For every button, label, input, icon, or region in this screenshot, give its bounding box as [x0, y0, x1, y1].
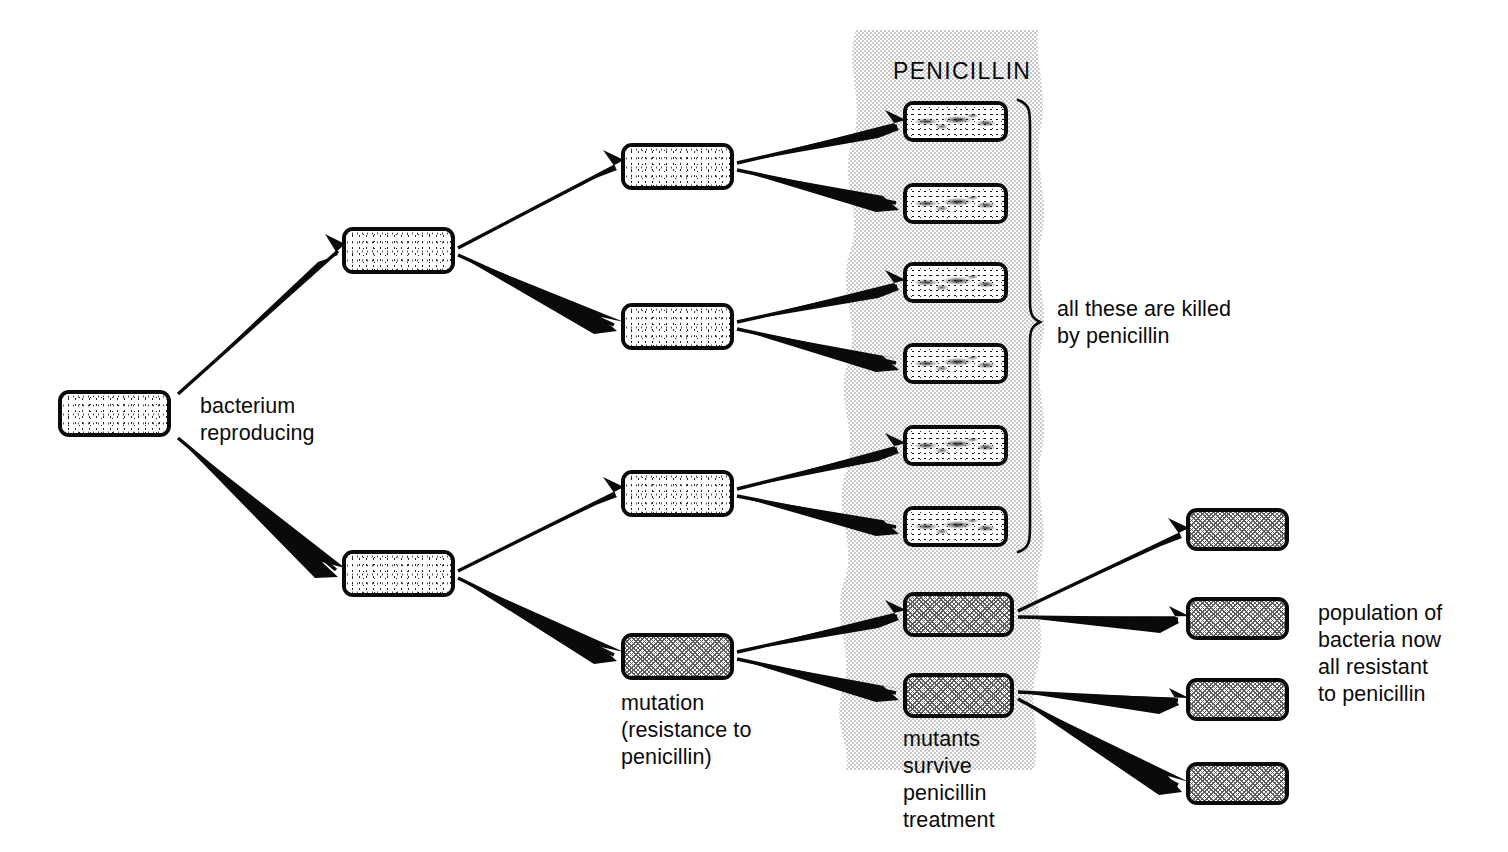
- arrow-g0c1-g1c1: [178, 234, 345, 394]
- arrow-g2c4-g3c7: [737, 600, 906, 652]
- arrow-g2c4-g3c8: [737, 659, 906, 702]
- diagram-canvas: PENICILLIN bacterium reproducing mutatio…: [0, 0, 1508, 852]
- killed-group-brace: [1018, 100, 1040, 552]
- arrow-g2c1-g3c1: [737, 110, 906, 163]
- arrow-g3c7-g4c1: [1018, 518, 1189, 611]
- arrow-g3c7-g4c2: [1018, 606, 1189, 633]
- arrow-g1c2-g2c4: [458, 578, 624, 664]
- arrow-g3c8-g4c4: [1018, 699, 1189, 795]
- connector-layer: [0, 0, 1508, 852]
- arrow-g3c8-g4c3: [1018, 688, 1189, 714]
- arrow-g1c2-g2c3: [458, 477, 624, 571]
- arrow-g0c1-g1c2: [178, 438, 345, 578]
- arrow-g2c2-g3c3: [737, 270, 906, 322]
- arrow-g2c3-g3c5: [737, 433, 906, 489]
- arrow-g2c3-g3c6: [737, 496, 906, 536]
- arrow-g2c1-g3c2: [737, 170, 906, 212]
- arrow-g2c2-g3c4: [737, 329, 906, 372]
- arrow-g1c1-g2c2: [458, 255, 624, 334]
- arrow-g1c1-g2c1: [458, 150, 624, 248]
